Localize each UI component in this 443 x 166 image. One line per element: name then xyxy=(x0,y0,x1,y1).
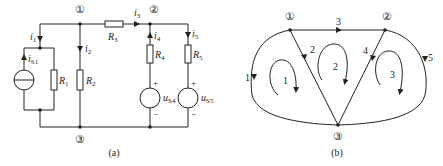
label-us5: uS5 xyxy=(201,92,214,105)
branch-4: 4 xyxy=(363,45,368,56)
us5-plus: + xyxy=(191,78,196,88)
graph-b xyxy=(251,30,426,125)
resistor-r3 xyxy=(105,21,123,27)
label-i1: i1 xyxy=(30,31,37,44)
label-i3: i3 xyxy=(134,7,141,20)
branch-1: 1 xyxy=(245,72,250,83)
label-r4: R4 xyxy=(154,49,165,62)
us4-minus: − xyxy=(153,109,158,119)
us5-minus: − xyxy=(191,109,196,119)
label-r3: R3 xyxy=(107,31,118,44)
loop-1: 1 xyxy=(283,75,288,86)
label-i2: i2 xyxy=(85,43,92,56)
label-r1: R1 xyxy=(58,75,69,88)
voltage-source-us4 xyxy=(140,88,160,108)
graph-dots xyxy=(251,27,428,127)
label-us4: uS4 xyxy=(163,92,176,105)
graph-node-3: ③ xyxy=(333,130,343,142)
resistor-r4 xyxy=(147,45,153,63)
circuit-figure: ① ② ③ i1 i2 i3 i4 i5 iS1 R1 R2 R3 R4 R5 … xyxy=(0,0,443,166)
node-2-label: ② xyxy=(149,3,159,15)
graph-node-1: ① xyxy=(285,10,295,22)
label-r5: R5 xyxy=(192,49,203,62)
label-i5: i5 xyxy=(192,28,199,41)
caption-a: (a) xyxy=(108,147,119,159)
caption-b: (b) xyxy=(331,147,343,159)
resistor-r1 xyxy=(51,70,57,90)
graph-node-2: ② xyxy=(382,10,392,22)
loop-3: 3 xyxy=(390,69,395,80)
resistor-r5 xyxy=(185,45,191,63)
loop-2: 2 xyxy=(333,61,338,72)
branch-2: 2 xyxy=(310,44,315,55)
node-3-label: ③ xyxy=(75,133,85,145)
node-1-label: ① xyxy=(75,3,85,15)
label-i4: i4 xyxy=(154,30,161,43)
voltage-source-us5 xyxy=(178,88,198,108)
resistor-r2 xyxy=(77,70,83,90)
label-r2: R2 xyxy=(85,75,96,88)
us4-plus: + xyxy=(153,78,158,88)
label-is1: iS1 xyxy=(28,53,39,66)
figure-svg: ① ② ③ i1 i2 i3 i4 i5 iS1 R1 R2 R3 R4 R5 … xyxy=(0,0,443,166)
branch-5: 5 xyxy=(428,52,433,63)
branch-3: 3 xyxy=(336,16,341,27)
